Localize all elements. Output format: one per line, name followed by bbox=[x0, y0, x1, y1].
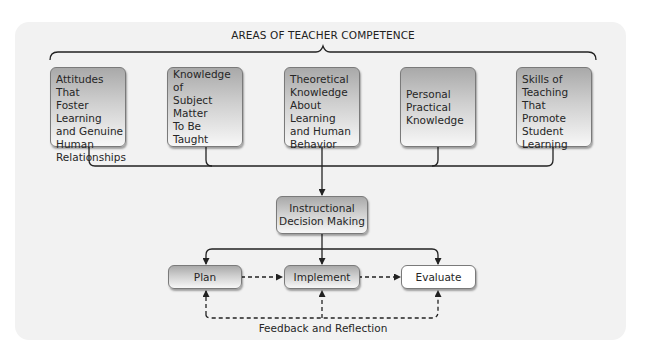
instructional-decision-making-node: Instructional Decision Making bbox=[276, 196, 368, 234]
competence-box-theoretical-knowledge: Theoretical Knowledge About Learning and… bbox=[284, 67, 360, 147]
step-implement: Implement bbox=[284, 265, 360, 289]
competence-box-practical-knowledge: Personal Practical Knowledge bbox=[400, 67, 476, 147]
competence-box-subject-knowledge: Knowledge of Subject Matter To Be Taught bbox=[167, 67, 243, 147]
connector-lines bbox=[0, 0, 646, 356]
competence-label: Attitudes That Foster Learning and Genui… bbox=[56, 73, 126, 164]
step-plan: Plan bbox=[168, 265, 242, 289]
feedback-label: Feedback and Reflection bbox=[0, 322, 646, 334]
competence-label: Personal Practical Knowledge bbox=[406, 88, 464, 127]
brace-icon bbox=[50, 46, 596, 60]
competence-box-teaching-skills: Skills of Teaching That Promote Student … bbox=[516, 67, 592, 147]
competence-box-attitudes: Attitudes That Foster Learning and Genui… bbox=[50, 67, 126, 147]
competence-label: Theoretical Knowledge About Learning and… bbox=[290, 73, 354, 151]
competence-label: Skills of Teaching That Promote Student … bbox=[522, 73, 586, 151]
step-evaluate: Evaluate bbox=[401, 265, 476, 289]
competence-label: Knowledge of Subject Matter To Be Taught bbox=[173, 68, 237, 146]
